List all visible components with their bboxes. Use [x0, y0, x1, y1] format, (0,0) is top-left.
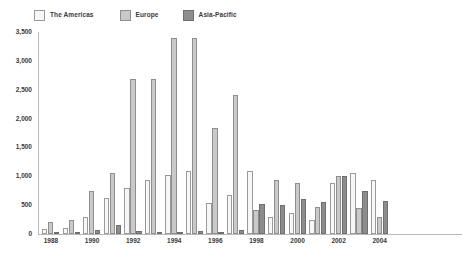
bar[interactable]: [177, 232, 182, 234]
x-axis-tick-label: 1992: [126, 238, 140, 245]
bar[interactable]: [136, 231, 141, 234]
bar[interactable]: [89, 191, 94, 234]
x-axis-tick-label: 2002: [331, 238, 345, 245]
bar[interactable]: [165, 175, 170, 234]
bar[interactable]: [171, 38, 176, 234]
bar[interactable]: [371, 180, 376, 234]
bar[interactable]: [336, 176, 341, 234]
x-axis-tick-label: 2000: [290, 238, 304, 245]
bar[interactable]: [268, 217, 273, 234]
y-axis-tick-label: 0: [28, 231, 32, 238]
bars-layer: [39, 32, 462, 234]
legend-swatch-icon: [183, 10, 194, 21]
legend-label: The Americas: [50, 12, 94, 19]
bar[interactable]: [130, 79, 135, 234]
bar[interactable]: [233, 95, 238, 234]
bar[interactable]: [192, 38, 197, 234]
bar-group: [330, 32, 348, 234]
bar[interactable]: [151, 79, 156, 234]
y-axis-tick-label: 500: [21, 202, 32, 209]
bar[interactable]: [247, 171, 252, 234]
x-axis-tick-label: 1994: [167, 238, 181, 245]
bar-group: [186, 32, 204, 234]
bar[interactable]: [356, 208, 361, 234]
bar-group: [227, 32, 245, 234]
x-axis-tick-label: 2004: [372, 238, 386, 245]
bar[interactable]: [227, 195, 232, 234]
bar[interactable]: [69, 220, 74, 234]
bar-group: [63, 32, 81, 234]
bar[interactable]: [218, 232, 223, 234]
bar[interactable]: [145, 180, 150, 234]
legend-label: Europe: [136, 12, 159, 19]
bar-chart: The AmericasEuropeAsia-Pacific 05001,000…: [0, 0, 471, 263]
bar[interactable]: [239, 230, 244, 234]
bar[interactable]: [350, 173, 355, 234]
chart-legend: The AmericasEuropeAsia-Pacific: [34, 7, 237, 23]
y-axis-tick-label: 3,500: [16, 29, 32, 36]
legend-swatch-icon: [120, 10, 131, 21]
legend-swatch-icon: [34, 10, 45, 21]
x-axis-tick-label: 1990: [85, 238, 99, 245]
bar[interactable]: [280, 205, 285, 234]
y-axis-tick-label: 1,500: [16, 144, 32, 151]
bar-group: [289, 32, 307, 234]
legend-entry[interactable]: Europe: [120, 10, 159, 21]
bar[interactable]: [330, 183, 335, 234]
legend-label: Asia-Pacific: [199, 12, 237, 19]
bar[interactable]: [110, 173, 115, 234]
bar[interactable]: [212, 128, 217, 234]
y-axis-tick-label: 1,000: [16, 173, 32, 180]
x-axis-tick-label: 1996: [208, 238, 222, 245]
bar-group: [165, 32, 183, 234]
bar-group: [247, 32, 265, 234]
bar-group: [83, 32, 101, 234]
bar[interactable]: [206, 203, 211, 234]
bar-group: [124, 32, 142, 234]
bar[interactable]: [104, 198, 109, 234]
bar[interactable]: [362, 191, 367, 234]
bar-group: [145, 32, 163, 234]
x-axis: 198819901992199419961998200020022004: [38, 238, 462, 252]
bar[interactable]: [54, 232, 59, 234]
y-axis-tick-label: 2,500: [16, 86, 32, 93]
bar-group: [268, 32, 286, 234]
bar[interactable]: [124, 188, 129, 234]
bar[interactable]: [315, 207, 320, 234]
x-axis-tick-label: 1998: [249, 238, 263, 245]
bar[interactable]: [186, 171, 191, 234]
bar[interactable]: [289, 213, 294, 234]
bar-group: [42, 32, 60, 234]
y-axis: 05001,0001,5002,0002,5003,0003,500: [0, 32, 36, 235]
bar[interactable]: [83, 217, 88, 234]
x-axis-tick-label: 1988: [44, 238, 58, 245]
bar[interactable]: [75, 232, 80, 234]
bar[interactable]: [321, 202, 326, 234]
bar[interactable]: [301, 199, 306, 234]
bar[interactable]: [274, 180, 279, 234]
bar-group: [371, 32, 389, 234]
bar-group: [104, 32, 122, 234]
bar[interactable]: [259, 204, 264, 234]
y-axis-tick-label: 2,000: [16, 115, 32, 122]
bar[interactable]: [342, 176, 347, 234]
bar[interactable]: [48, 222, 53, 234]
plot-area: [38, 32, 462, 235]
bar[interactable]: [383, 201, 388, 234]
bar[interactable]: [116, 225, 121, 234]
bar-group: [350, 32, 368, 234]
bar[interactable]: [42, 229, 47, 234]
bar-group: [206, 32, 224, 234]
bar[interactable]: [95, 230, 100, 234]
bar-group: [309, 32, 327, 234]
legend-entry[interactable]: Asia-Pacific: [183, 10, 237, 21]
legend-entry[interactable]: The Americas: [34, 10, 94, 21]
bar[interactable]: [377, 217, 382, 234]
bar[interactable]: [253, 210, 258, 234]
bar[interactable]: [309, 220, 314, 234]
bar[interactable]: [198, 231, 203, 234]
bar[interactable]: [157, 232, 162, 234]
y-axis-tick-label: 3,000: [16, 58, 32, 65]
bar[interactable]: [63, 228, 68, 234]
bar[interactable]: [295, 183, 300, 234]
